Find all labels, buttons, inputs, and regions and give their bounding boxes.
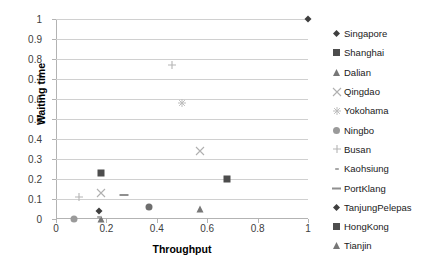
y-axis-tick bbox=[52, 79, 56, 80]
x-axis-title: Throughput bbox=[56, 243, 308, 255]
x-axis-tick-label: 0.6 bbox=[200, 223, 214, 234]
legend-item-portklang[interactable]: PortKlang bbox=[330, 178, 434, 197]
data-point-hongkong bbox=[222, 174, 233, 185]
legend-item-qingdao[interactable]: Qingdao bbox=[330, 82, 434, 101]
legend-dash-small-icon bbox=[330, 162, 343, 175]
grid-line-horizontal bbox=[56, 159, 308, 160]
y-axis-tick-label: 0.2 bbox=[28, 174, 42, 185]
legend-plus-icon bbox=[330, 143, 343, 156]
data-point-qingdao bbox=[194, 145, 206, 157]
data-point-shanghai bbox=[96, 168, 107, 179]
grid-line-horizontal bbox=[56, 19, 308, 20]
x-axis-tick-label: 0.4 bbox=[150, 223, 164, 234]
legend-item-tanjungpelepas[interactable]: TanjungPelepas bbox=[330, 198, 434, 217]
y-axis-tick bbox=[52, 19, 56, 20]
legend-square-filled-icon bbox=[330, 220, 343, 233]
legend-item-dalian[interactable]: Dalian bbox=[330, 63, 434, 82]
grid-line-horizontal bbox=[56, 119, 308, 120]
data-point-busan bbox=[166, 59, 178, 71]
y-axis-tick bbox=[52, 199, 56, 200]
grid-line-horizontal bbox=[56, 199, 308, 200]
data-point-ningbo bbox=[144, 202, 155, 213]
grid-line-horizontal bbox=[56, 79, 308, 80]
legend-item-label: Kaohsiung bbox=[343, 163, 389, 174]
legend-asterisk-icon bbox=[330, 104, 343, 117]
data-point-portklang bbox=[118, 189, 131, 202]
legend-item-tianjin[interactable]: Tianjin bbox=[330, 236, 434, 255]
grid-line-horizontal bbox=[56, 59, 308, 60]
y-axis-tick-label: 0.3 bbox=[28, 154, 42, 165]
legend-dash-icon bbox=[330, 182, 343, 195]
grid-line-horizontal bbox=[56, 179, 308, 180]
y-axis-tick bbox=[52, 139, 56, 140]
grid-line-horizontal bbox=[56, 39, 308, 40]
legend-item-label: Tianjin bbox=[343, 240, 372, 251]
legend-item-label: HongKong bbox=[343, 221, 389, 232]
data-point-busan bbox=[73, 191, 85, 203]
legend-item-label: PortKlang bbox=[343, 183, 386, 194]
legend-item-label: Singapore bbox=[343, 28, 387, 39]
legend-item-label: Busan bbox=[343, 144, 371, 155]
legend-item-label: TanjungPelepas bbox=[343, 202, 412, 213]
y-axis-tick bbox=[52, 39, 56, 40]
plot-area bbox=[56, 19, 308, 219]
legend-item-yokohama[interactable]: Yokohama bbox=[330, 101, 434, 120]
x-axis-tick-label: 0.8 bbox=[251, 223, 265, 234]
y-axis-tick bbox=[52, 99, 56, 100]
scatter-chart: 00.10.20.30.40.50.60.70.80.91 Waiting ti… bbox=[0, 0, 435, 275]
legend-triangle-filled-icon bbox=[330, 239, 343, 252]
legend-item-ningbo[interactable]: Ningbo bbox=[330, 120, 434, 139]
chart-legend: SingaporeShanghaiDalianQingdaoYokohamaNi… bbox=[330, 24, 434, 256]
data-point-yokohama bbox=[176, 97, 188, 109]
data-point-tanjungpelepas bbox=[93, 206, 104, 217]
legend-cross-x-icon bbox=[330, 85, 343, 98]
legend-item-label: Dalian bbox=[343, 67, 371, 78]
y-axis-tick-label: 0.1 bbox=[28, 194, 42, 205]
y-axis-title: Waiting time bbox=[35, 49, 47, 139]
legend-item-singapore[interactable]: Singapore bbox=[330, 24, 434, 43]
y-axis-tick-label: 1 bbox=[36, 14, 42, 25]
x-axis-tick-label: 0.2 bbox=[99, 223, 113, 234]
grid-line-horizontal bbox=[56, 139, 308, 140]
y-axis-tick bbox=[52, 159, 56, 160]
legend-square-filled-icon bbox=[330, 46, 343, 59]
legend-item-label: Qingdao bbox=[343, 86, 380, 97]
y-axis-tick bbox=[52, 59, 56, 60]
data-point-tianjin bbox=[194, 204, 205, 215]
legend-circle-filled-icon bbox=[330, 124, 343, 137]
legend-item-label: Shanghai bbox=[343, 47, 384, 58]
y-axis-tick-label: 0 bbox=[36, 214, 42, 225]
data-point-singapore bbox=[303, 14, 314, 25]
legend-diamond-filled-icon bbox=[330, 201, 343, 214]
legend-diamond-filled-icon bbox=[330, 27, 343, 40]
legend-item-hongkong[interactable]: HongKong bbox=[330, 217, 434, 236]
legend-triangle-filled-icon bbox=[330, 66, 343, 79]
x-axis-tick-label: 0 bbox=[53, 223, 59, 234]
legend-item-shanghai[interactable]: Shanghai bbox=[330, 43, 434, 62]
legend-item-kaohsiung[interactable]: Kaohsiung bbox=[330, 159, 434, 178]
x-axis-tick-label: 1 bbox=[305, 223, 311, 234]
y-axis-tick bbox=[52, 179, 56, 180]
x-axis-tick-labels: 00.20.40.60.81 bbox=[56, 223, 308, 239]
y-axis-tick bbox=[52, 119, 56, 120]
legend-item-label: Yokohama bbox=[343, 105, 389, 116]
legend-item-label: Ningbo bbox=[343, 125, 374, 136]
y-axis-tick-label: 0.9 bbox=[28, 34, 42, 45]
legend-item-busan[interactable]: Busan bbox=[330, 140, 434, 159]
data-point-qingdao bbox=[95, 187, 107, 199]
